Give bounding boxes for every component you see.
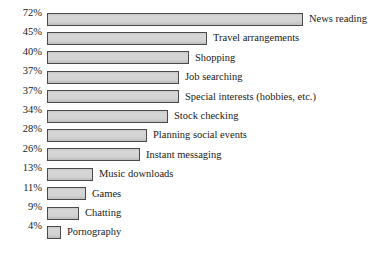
bar-value-label: 13%	[0, 162, 42, 173]
bar-row: 13%Music downloads	[0, 162, 388, 181]
bar-fill	[47, 187, 86, 200]
bar-row: 45%Travel arrangements	[0, 26, 388, 45]
bar-value-label: 72%	[0, 7, 42, 18]
bar-value-label: 9%	[0, 201, 42, 212]
bar-fill	[47, 13, 303, 26]
bar	[47, 226, 61, 239]
bar	[47, 13, 303, 26]
bar	[47, 168, 93, 181]
bar-category-label: Shopping	[195, 51, 235, 64]
bar-value-label: 4%	[0, 220, 42, 231]
bar-category-label: Travel arrangements	[213, 31, 299, 44]
bar-row: 72%News reading	[0, 7, 388, 26]
bar-fill	[47, 168, 93, 181]
bar-fill	[47, 51, 189, 64]
bar-fill	[47, 32, 207, 45]
bar-category-label: Pornography	[67, 225, 121, 238]
bar-category-label: Planning social events	[153, 128, 247, 141]
bar	[47, 187, 86, 200]
bar	[47, 32, 207, 45]
bar-value-label: 28%	[0, 123, 42, 134]
bar-value-label: 40%	[0, 46, 42, 57]
bar	[47, 207, 79, 220]
bar-category-label: Chatting	[85, 206, 121, 219]
bar-value-label: 11%	[0, 182, 42, 193]
bar-category-label: Special interests (hobbies, etc.)	[185, 90, 316, 103]
bar-fill	[47, 148, 140, 161]
bar-category-label: Music downloads	[99, 167, 173, 180]
bar-value-label: 37%	[0, 85, 42, 96]
bar-fill	[47, 129, 147, 142]
bar-value-label: 45%	[0, 26, 42, 37]
bar-fill	[47, 226, 61, 239]
bar-fill	[47, 207, 79, 220]
bar-row: 26%Instant messaging	[0, 143, 388, 162]
bar	[47, 51, 189, 64]
bar-category-label: Instant messaging	[146, 148, 222, 161]
bar	[47, 148, 140, 161]
bar-fill	[47, 110, 168, 123]
bar-fill	[47, 90, 179, 103]
bar-category-label: Games	[92, 187, 121, 200]
bar-category-label: Stock checking	[174, 109, 238, 122]
bar-value-label: 26%	[0, 143, 42, 154]
bar-row: 34%Stock checking	[0, 104, 388, 123]
bar-value-label: 37%	[0, 65, 42, 76]
bar-fill	[47, 71, 179, 84]
bar-row: 37%Job searching	[0, 65, 388, 84]
bar	[47, 129, 147, 142]
bar	[47, 90, 179, 103]
plot-area: 72%News reading45%Travel arrangements40%…	[0, 0, 388, 258]
bar-category-label: News reading	[309, 12, 367, 25]
bar-row: 9%Chatting	[0, 201, 388, 220]
bar-row: 37%Special interests (hobbies, etc.)	[0, 85, 388, 104]
bar-value-label: 34%	[0, 104, 42, 115]
bar-chart: 72%News reading45%Travel arrangements40%…	[0, 0, 388, 258]
bar-row: 4%Pornography	[0, 220, 388, 239]
bar-row: 40%Shopping	[0, 46, 388, 65]
bar-category-label: Job searching	[185, 70, 242, 83]
bar-row: 11%Games	[0, 182, 388, 201]
bar	[47, 71, 179, 84]
bar-row: 28%Planning social events	[0, 123, 388, 142]
bar	[47, 110, 168, 123]
